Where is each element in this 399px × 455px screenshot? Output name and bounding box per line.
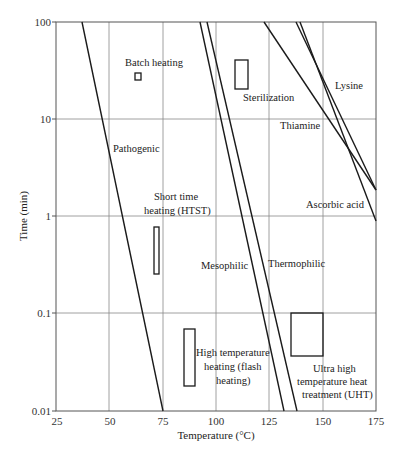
label-thiamine: Thiamine [280, 120, 321, 131]
label-thermophilic: Thermophilic [268, 258, 325, 269]
label-sterilization: Sterilization [243, 92, 295, 103]
x-tick-100: 100 [208, 415, 225, 427]
line-lysine [296, 22, 376, 190]
label-uht-3: treatment (UHT) [302, 389, 373, 401]
label-pathogenic: Pathogenic [113, 143, 160, 154]
x-tick-150: 150 [315, 415, 332, 427]
x-tick-25: 25 [52, 415, 64, 427]
y-tick-10: 10 [40, 113, 52, 125]
y-tick-1: 1 [46, 210, 52, 222]
label-htst-2: heating (HTST) [144, 205, 211, 217]
label-uht-1: Ultra high [313, 363, 357, 374]
label-batch-heating: Batch heating [125, 57, 184, 68]
label-flash-2: heating (flash [204, 361, 262, 373]
label-flash-3: heating) [216, 375, 251, 387]
x-tick-125: 125 [261, 415, 278, 427]
line-thiamine [264, 22, 376, 190]
y-tick-labels: 100 10 1 0.1 0.01 [32, 16, 52, 417]
line-pathogenic [82, 22, 163, 411]
label-ascorbic-acid: Ascorbic acid [306, 199, 365, 210]
label-uht-2: temperature heat [297, 376, 367, 387]
y-tick-100: 100 [35, 16, 52, 28]
heat-treatment-chart: Batch heating Sterilization Lysine Thiam… [0, 0, 399, 455]
region-batch-heating [135, 73, 141, 80]
y-tick-marks [52, 22, 56, 411]
region-uht [291, 313, 323, 356]
label-mesophilic: Mesophilic [201, 260, 249, 271]
region-sterilization [235, 60, 248, 89]
x-tick-50: 50 [105, 415, 117, 427]
label-lysine: Lysine [335, 80, 363, 91]
x-axis-title: Temperature (°C) [177, 429, 255, 442]
y-axis-title: Time (min) [17, 191, 30, 241]
x-tick-75: 75 [158, 415, 170, 427]
x-tick-175: 175 [368, 415, 385, 427]
label-htst-1: Short time [154, 191, 198, 202]
annotations: Batch heating Sterilization Lysine Thiam… [113, 57, 373, 401]
region-flash-heating [184, 329, 195, 386]
x-tick-labels: 25 50 75 100 125 150 175 [52, 415, 385, 427]
label-flash-1: High temperature [196, 347, 270, 358]
y-tick-0-1: 0.1 [37, 307, 51, 319]
region-htst [154, 227, 159, 274]
y-tick-0-01: 0.01 [32, 405, 51, 417]
